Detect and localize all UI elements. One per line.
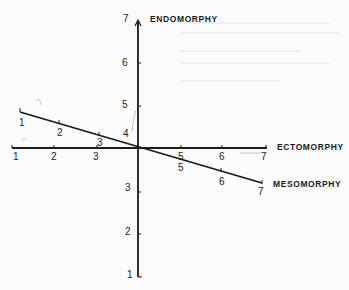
endo-tick-4: 4 (123, 128, 129, 139)
endo-tick-5: 5 (122, 99, 128, 110)
ecto-tick-2: 2 (51, 151, 57, 162)
somatotype-diagram: 7 6 5 4 3 2 1 ENDOMORPHY 1 2 3 5 6 7 ECT… (0, 0, 349, 290)
ecto-tick-1: 1 (13, 151, 19, 162)
endo-tick-3: 3 (125, 182, 131, 193)
meso-tick-7: 7 (258, 186, 264, 197)
meso-tick-1: 1 (19, 117, 25, 128)
meso-tick-6: 6 (219, 176, 225, 187)
endomorphy-label: ENDOMORPHY (150, 14, 218, 24)
ecto-tick-3: 3 (93, 151, 99, 162)
endo-tick-7: 7 (123, 13, 129, 24)
diagram-canvas: 7 6 5 4 3 2 1 ENDOMORPHY 1 2 3 5 6 7 ECT… (0, 0, 349, 290)
ectomorphy-label: ECTOMORPHY (277, 142, 344, 152)
ecto-tick-6: 6 (219, 151, 225, 162)
endo-tick-1: 1 (127, 269, 133, 280)
meso-tick-5: 5 (178, 162, 184, 173)
endo-tick-6: 6 (122, 57, 128, 68)
mesomorphy-label: MESOMORPHY (273, 179, 341, 189)
meso-tick-3: 3 (97, 137, 103, 148)
endo-tick-2: 2 (125, 226, 131, 237)
meso-tick-2: 2 (57, 127, 63, 138)
pencil-annotations (21, 99, 262, 153)
